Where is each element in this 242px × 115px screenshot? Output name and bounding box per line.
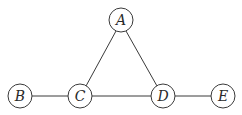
graph-diagram: A B C D E — [0, 0, 242, 115]
node-b-label: B — [14, 88, 25, 104]
node-a-label: A — [114, 12, 126, 28]
node-e-label: E — [217, 88, 228, 104]
node-c-label: C — [75, 88, 86, 104]
node-d: D — [151, 84, 175, 108]
edges — [32, 31, 211, 96]
node-d-label: D — [156, 88, 168, 104]
node-a: A — [109, 8, 133, 32]
node-b: B — [8, 84, 32, 108]
node-e: E — [211, 84, 235, 108]
edge-a-c — [86, 31, 116, 86]
edge-a-d — [126, 31, 157, 86]
node-c: C — [68, 84, 92, 108]
